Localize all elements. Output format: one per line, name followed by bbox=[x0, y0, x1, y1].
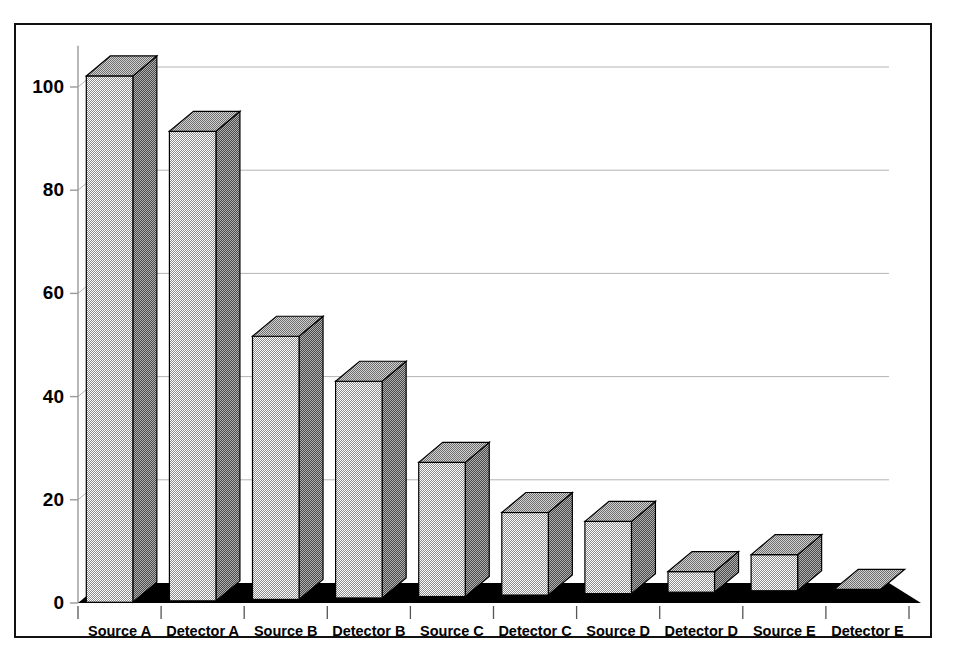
y-axis-tick-label: 20 bbox=[16, 490, 64, 509]
x-axis-tick-label: Source B bbox=[244, 624, 327, 639]
bar-8 bbox=[751, 535, 822, 591]
chart-frame: 020406080100 Source ADetector ASource BD… bbox=[14, 23, 932, 638]
x-axis-tick-label: Source C bbox=[410, 624, 493, 639]
y-axis-tick-label: 0 bbox=[16, 593, 64, 612]
bar-0 bbox=[86, 56, 157, 602]
y-axis-tick-label: 60 bbox=[16, 283, 64, 302]
x-axis-tick-label: Detector A bbox=[161, 624, 244, 639]
x-axis-tick-label: Detector D bbox=[660, 624, 743, 639]
x-axis-tick-label: Source E bbox=[743, 624, 826, 639]
bar-1 bbox=[169, 111, 240, 601]
x-axis-tick-label: Detector B bbox=[327, 624, 410, 639]
chart-figure: 020406080100 Source ADetector ASource BD… bbox=[0, 0, 958, 657]
axis-lines-group bbox=[70, 46, 78, 603]
bar-2 bbox=[253, 316, 324, 599]
y-axis-tick-label: 100 bbox=[16, 77, 64, 96]
y-axis-tick-label: 80 bbox=[16, 180, 64, 199]
x-axis-tick-label: Detector E bbox=[826, 624, 909, 639]
bar-6 bbox=[585, 501, 656, 593]
xtick-marks-group bbox=[78, 606, 909, 619]
bar-3 bbox=[336, 361, 407, 598]
bar-5 bbox=[502, 493, 573, 596]
x-axis-tick-label: Source A bbox=[78, 624, 161, 639]
bar-4 bbox=[419, 442, 490, 596]
x-axis-tick-label: Detector C bbox=[494, 624, 577, 639]
x-axis-tick-label: Source D bbox=[577, 624, 660, 639]
bar-chart-plot bbox=[16, 25, 930, 636]
y-axis-tick-label: 40 bbox=[16, 387, 64, 406]
bars-group bbox=[86, 56, 904, 602]
